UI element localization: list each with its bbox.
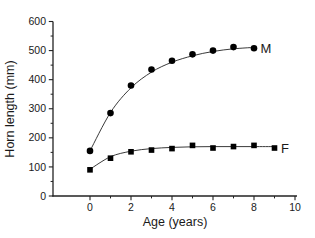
y-tick-label: 300 (28, 102, 46, 114)
x-tick-label: 2 (128, 201, 134, 213)
data-point-females (87, 167, 93, 173)
x-tick-label: 8 (251, 201, 257, 213)
x-tick-label: 6 (210, 201, 216, 213)
data-point-males (251, 45, 258, 52)
data-point-females (210, 145, 216, 151)
data-point-males (107, 110, 114, 117)
data-point-females (190, 143, 196, 149)
chart-generated-layer: 01002003004005006000246810MF (28, 15, 301, 212)
data-point-males (87, 148, 94, 155)
y-tick-label: 600 (28, 15, 46, 27)
data-point-females (251, 143, 257, 149)
data-point-males (210, 47, 217, 54)
data-point-males (169, 57, 176, 64)
x-axis-label: Age (years) (143, 215, 208, 229)
data-point-males (148, 66, 155, 73)
data-point-females (149, 147, 155, 153)
series-curve-females (90, 147, 275, 170)
y-tick-label: 100 (28, 161, 46, 173)
horn-growth-chart: 01002003004005006000246810MF Age (years)… (0, 0, 315, 238)
data-point-males (230, 44, 237, 51)
data-point-females (169, 146, 175, 152)
data-point-males (128, 82, 135, 89)
chart-figure: 01002003004005006000246810MF Age (years)… (0, 0, 315, 238)
data-point-females (231, 144, 237, 150)
y-tick-label: 200 (28, 131, 46, 143)
x-tick-label: 0 (87, 201, 93, 213)
y-axis-label: Horn length (mm) (3, 60, 17, 157)
x-tick-label: 4 (169, 201, 175, 213)
y-tick-label: 0 (40, 190, 46, 202)
series-label-males: M (261, 41, 272, 56)
y-tick-label: 500 (28, 44, 46, 56)
series-label-females: F (281, 141, 289, 156)
y-tick-label: 400 (28, 73, 46, 85)
x-tick-label: 10 (289, 201, 301, 213)
data-point-females (108, 155, 114, 161)
data-point-males (189, 51, 196, 58)
data-point-females (128, 149, 134, 155)
data-point-females (272, 145, 278, 151)
